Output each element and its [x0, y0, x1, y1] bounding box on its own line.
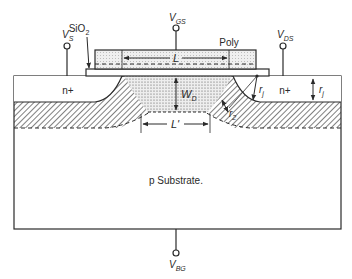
source-label: n+	[62, 85, 74, 96]
body-terminal-icon	[173, 250, 179, 256]
body-terminal: VBG	[169, 229, 186, 272]
gate-terminal-icon	[173, 25, 179, 31]
wd-sub: D	[191, 95, 196, 102]
poly-label: Poly	[219, 37, 238, 48]
drain-terminal: VDS	[277, 29, 294, 76]
gate-length-label: L	[173, 52, 179, 64]
drain-label: n+	[279, 85, 291, 96]
mosfet-diagram: L L' WD rj r2 rj n+ n+ Po	[0, 0, 352, 279]
sio2-main: SiO	[69, 23, 86, 34]
source-terminal: VS	[62, 29, 74, 76]
gate-oxide	[86, 69, 269, 76]
gate-terminal: VGS	[169, 12, 186, 50]
svg-text:VBG: VBG	[169, 259, 186, 272]
source-terminal-icon	[64, 43, 70, 49]
svg-text:VDS: VDS	[277, 29, 294, 42]
effective-length-label: L'	[171, 118, 180, 130]
sio2-sub: 2	[85, 29, 89, 36]
sio2-annotation: SiO2	[69, 23, 90, 68]
svg-text:VGS: VGS	[169, 12, 186, 25]
substrate-label: p Substrate.	[149, 175, 203, 186]
drain-terminal-icon	[280, 43, 286, 49]
